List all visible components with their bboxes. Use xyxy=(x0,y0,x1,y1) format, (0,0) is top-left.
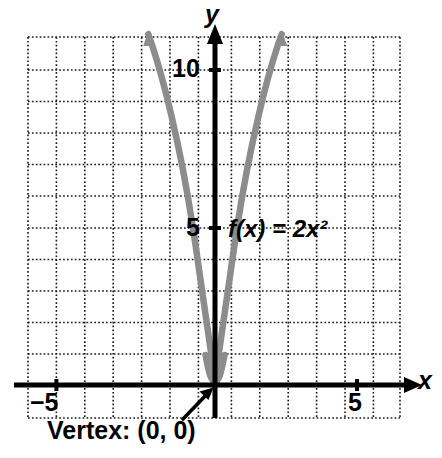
y-tick-label-10: 10 xyxy=(172,56,200,81)
x-axis-label: x xyxy=(418,368,432,393)
y-axis-label: y xyxy=(205,2,219,27)
y-tick-label-5: 5 xyxy=(186,215,200,240)
vertex-annotation-label: Vertex: (0, 0) xyxy=(47,418,196,443)
x-tick-label-5: 5 xyxy=(348,390,362,415)
parabola-figure: y x 10 5 −5 5 f(x) = 2x² Vertex: (0, 0) xyxy=(0,0,442,458)
function-equation-label: f(x) = 2x² xyxy=(228,217,327,241)
curve-left-arrowhead xyxy=(143,30,155,46)
x-tick-label-negative-5: −5 xyxy=(30,390,59,415)
coordinate-plane xyxy=(0,0,442,458)
